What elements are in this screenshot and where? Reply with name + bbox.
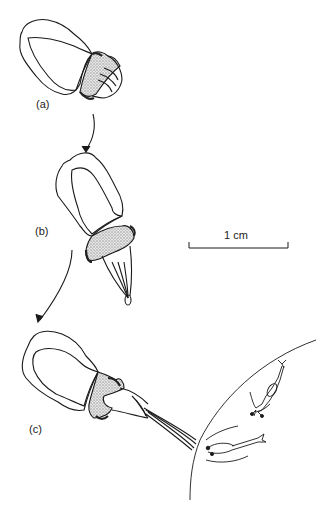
scale-bar-label: 1 cm xyxy=(224,229,248,241)
copepod-prey-upper xyxy=(250,360,286,418)
panel-label-b: (b) xyxy=(35,225,48,237)
boundary-arc xyxy=(190,340,316,500)
panel-label-c: (c) xyxy=(29,423,42,435)
arrow-a-to-b xyxy=(82,114,94,152)
organism-a xyxy=(20,20,122,99)
panel-label-a: (a) xyxy=(36,98,49,110)
organism-b xyxy=(56,153,135,305)
illustration-canvas xyxy=(0,0,331,506)
copepod-prey-lower xyxy=(206,426,266,462)
organism-c xyxy=(22,331,196,450)
scale-bar xyxy=(189,242,288,248)
arrow-b-to-c xyxy=(36,250,72,322)
